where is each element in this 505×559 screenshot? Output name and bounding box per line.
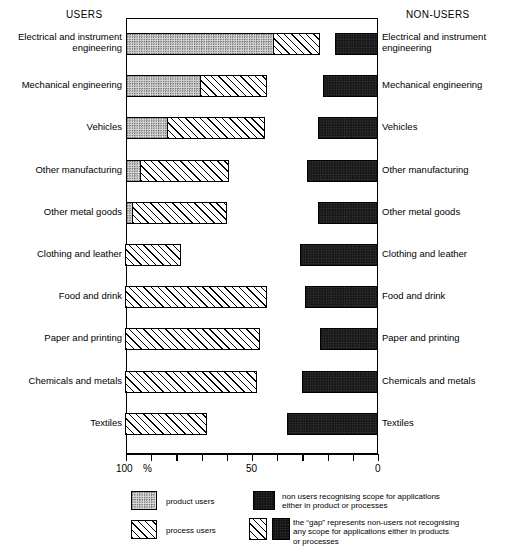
bar-row: Other manufacturingOther manufacturing (0, 155, 505, 187)
bar-segment-process-users (200, 75, 267, 97)
row-label-right: Other metal goods (382, 206, 505, 217)
bar-segment-non-users (287, 413, 378, 435)
row-label-right: Mechanical engineering (382, 79, 505, 90)
row-label-left: Paper and printing (0, 332, 122, 343)
legend-swatch-gap-process (249, 518, 267, 540)
legend-swatch-gap-non-users (272, 518, 290, 540)
bar-segment-process-users (167, 117, 264, 139)
bar-segment-non-users (320, 328, 378, 350)
bar-row: VehiclesVehicles (0, 112, 505, 144)
row-label-left: Food and drink (0, 290, 122, 301)
bar-rows-layer: Electrical and instrument engineeringEle… (0, 0, 505, 460)
bar-segment-process-users (132, 202, 227, 224)
row-label-left: Vehicles (0, 121, 122, 132)
row-label-right: Clothing and leather (382, 248, 505, 259)
axis-label-100: 100 (116, 463, 133, 474)
bar-segment-process-users (125, 286, 268, 308)
bar-segment-process-users (125, 371, 257, 393)
bar-segment-process-users (125, 413, 207, 435)
bar-row: Electrical and instrument engineeringEle… (0, 28, 505, 60)
row-label-left: Chemicals and metals (0, 375, 122, 386)
legend-swatch-non-users (253, 491, 275, 510)
row-label-left: Other metal goods (0, 206, 122, 217)
bar-segment-process-users (125, 244, 182, 266)
bar-row: Food and drinkFood and drink (0, 281, 505, 313)
x-axis-tick (202, 454, 203, 461)
x-axis-tick (353, 454, 354, 461)
legend-label-product-users: product users (166, 497, 214, 506)
bar-row: Paper and printingPaper and printing (0, 323, 505, 355)
axis-label-50: 50 (246, 463, 257, 474)
x-axis-tick (151, 454, 152, 461)
bar-row: Clothing and leatherClothing and leather (0, 239, 505, 271)
x-axis-tick (227, 454, 228, 461)
row-label-left: Other manufacturing (0, 164, 122, 175)
legend-swatch-product-users (131, 491, 157, 510)
row-label-right: Chemicals and metals (382, 375, 505, 386)
axis-label-0: 0 (375, 463, 381, 474)
legend-label-non-users: non users recognising scope for applicat… (282, 492, 440, 511)
row-label-right: Paper and printing (382, 332, 505, 343)
bar-segment-product-users (126, 75, 202, 97)
row-label-left: Electrical and instrument engineering (0, 31, 122, 53)
bar-segment-process-users (140, 160, 230, 182)
bar-segment-process-users (125, 328, 260, 350)
bar-row: Other metal goodsOther metal goods (0, 197, 505, 229)
bar-segment-non-users (318, 117, 378, 139)
x-axis-tick (126, 454, 127, 461)
row-label-right: Food and drink (382, 290, 505, 301)
chart-root: USERS NON-USERS Electrical and instrumen… (0, 0, 505, 559)
row-label-right: Textiles (382, 417, 505, 428)
bar-segment-non-users (323, 75, 378, 97)
bar-segment-non-users (300, 244, 378, 266)
bar-segment-non-users (302, 371, 378, 393)
bar-row: Mechanical engineeringMechanical enginee… (0, 70, 505, 102)
bar-segment-non-users (335, 33, 378, 55)
row-label-left: Clothing and leather (0, 248, 122, 259)
legend-label-process-users: process users (166, 526, 216, 535)
bar-segment-non-users (305, 286, 378, 308)
bar-segment-non-users (318, 202, 378, 224)
x-axis-tick (252, 454, 253, 461)
row-label-left: Mechanical engineering (0, 79, 122, 90)
bar-row: TextilesTextiles (0, 408, 505, 440)
legend: product users process users non users re… (0, 487, 505, 559)
x-axis-tick (302, 454, 303, 461)
bar-segment-product-users (126, 117, 169, 139)
legend-label-gap: the “gap” represents non-users not recog… (293, 518, 459, 546)
x-axis-tick (176, 454, 177, 461)
row-label-left: Textiles (0, 417, 122, 428)
bar-segment-process-users (273, 33, 320, 55)
x-axis-tick (378, 454, 379, 461)
x-axis-tick (328, 454, 329, 461)
bar-row: Chemicals and metalsChemicals and metals (0, 366, 505, 398)
x-axis-tick (277, 454, 278, 461)
legend-swatch-process-users (131, 520, 157, 539)
bar-segment-product-users (126, 33, 275, 55)
row-label-right: Vehicles (382, 121, 505, 132)
row-label-right: Other manufacturing (382, 164, 505, 175)
axis-label-percent: % (143, 463, 152, 474)
row-label-right: Electrical and instrument engineering (382, 31, 505, 53)
bar-segment-non-users (307, 160, 378, 182)
